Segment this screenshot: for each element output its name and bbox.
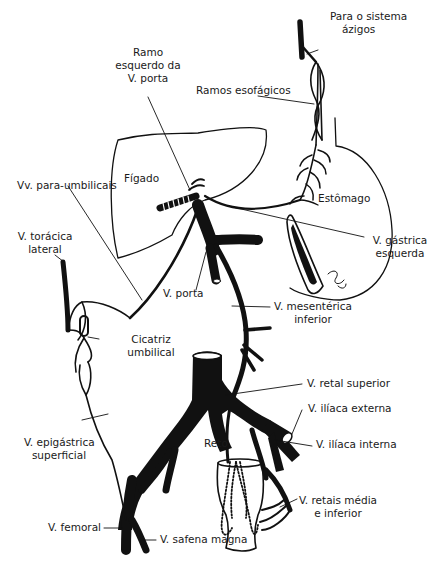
label-umbilical-scar: Cicatriz umbilical [126,333,176,359]
label-inferior-mesenteric-vein: V. mesentérica inferior [272,300,354,326]
azygos-vessel [300,22,302,57]
label-great-saphenous-vein: V. safena magna [160,533,247,546]
ivc-cut [193,353,221,360]
label-internal-iliac-vein: V. ilíaca interna [316,438,397,451]
label-rectum: Reto [204,437,228,450]
paraumbilical-vein [130,208,198,318]
portal-vein-cut [214,279,221,283]
label-liver: Fígado [124,172,159,185]
label-paraumbilical-veins: Vv. para-umbilicais [17,179,117,192]
great-saphenous-vein [132,520,146,550]
lateral-thoracic-vein [63,262,68,330]
abdominal-wall-varices [68,302,130,520]
left-gastric-vein [205,196,300,209]
stomach-outline [290,118,392,300]
femoral-vein [126,480,132,550]
label-left-portal-branch: Ramo esquerdo da V. porta [113,46,183,85]
label-portal-vein: V. porta [163,287,203,300]
label-azygos: Para o sistema ázigos [330,10,407,36]
artist-signature [328,271,346,288]
label-stomach: Estômago [318,192,370,205]
label-superior-rectal-vein: V. retal superior [307,377,390,390]
stomach-cut-lumen [291,224,317,285]
label-superficial-epigastric-vein: V. epigástrica superficial [24,436,94,462]
label-femoral-vein: V. femoral [48,521,101,534]
portal-vein-branch-down [210,248,216,280]
label-middle-inferior-rectal-veins: V. retais média e inferior [296,494,380,520]
portal-vein-branch-right [212,239,258,240]
label-external-iliac-vein: V. ilíaca externa [308,402,392,415]
label-esophageal-branches: Ramos esofágicos [196,84,291,97]
label-lateral-thoracic-vein: V. torácica lateral [14,230,76,256]
label-left-gastric-vein: V. gástrica esquerda [368,234,432,260]
